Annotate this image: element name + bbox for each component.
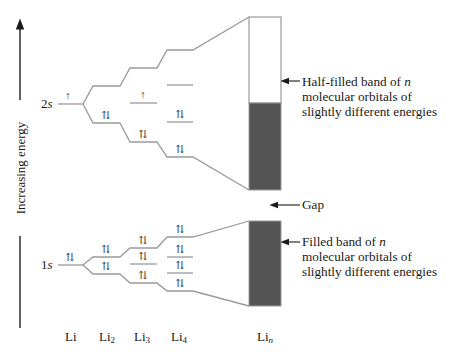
electron-pair-icon: ⇅ <box>138 234 147 246</box>
species-label-lin: Lin <box>257 329 274 345</box>
orbital-label-1s: 1s <box>41 257 53 272</box>
half-filled-line1: Half-filled band of n <box>302 74 411 89</box>
species-labels: Li Li2 Li3 Li4 Lin <box>65 329 274 345</box>
electron-up-icon: ↑ <box>65 89 71 101</box>
electron-pair-icon: ⇅ <box>65 251 74 263</box>
electron-up-icon: ↑ <box>140 88 146 100</box>
electron-pair-icon: ⇅ <box>175 223 184 235</box>
electron-pair-icon: ⇅ <box>138 269 147 281</box>
upper-band-empty-half <box>249 17 281 103</box>
filled-line2: molecular orbitals of <box>302 249 412 264</box>
upper-band <box>249 17 281 190</box>
electron-pair-icon: ⇅ <box>138 250 147 262</box>
species-label-li4: Li4 <box>171 329 188 345</box>
lower-band <box>249 221 281 306</box>
half-filled-annotation: Half-filled band of n molecular orbitals… <box>285 74 437 119</box>
band-theory-diagram: Increasing energy 2s 1s ↑ ⇅ ↑ ⇅ ⇅ ⇅ ⇅ ⇅ … <box>0 0 451 364</box>
2s-manifold: ↑ ⇅ ↑ ⇅ ⇅ ⇅ <box>58 17 249 190</box>
1s-manifold: ⇅ ⇅ ⇅ ⇅ ⇅ ⇅ ⇅ ⇅ ⇅ ⇅ <box>58 221 249 306</box>
species-label-li3: Li3 <box>134 329 151 345</box>
electron-pair-icon: ⇅ <box>101 109 110 121</box>
electron-pair-icon: ⇅ <box>175 243 184 255</box>
electron-pair-icon: ⇅ <box>175 259 184 271</box>
energy-axis: Increasing energy <box>13 24 28 328</box>
electron-pair-icon: ⇅ <box>101 243 110 255</box>
electron-pair-icon: ⇅ <box>175 277 184 289</box>
electron-pair-icon: ⇅ <box>175 108 184 120</box>
energy-axis-label: Increasing energy <box>13 121 28 214</box>
filled-line3: slightly different energies <box>302 264 437 279</box>
half-filled-line2: molecular orbitals of <box>302 89 412 104</box>
upper-band-filled-half <box>249 103 281 190</box>
electron-pair-icon: ⇅ <box>175 143 184 155</box>
gap-label: Gap <box>302 197 324 212</box>
species-label-li2: Li2 <box>99 329 115 345</box>
half-filled-line3: slightly different energies <box>302 104 437 119</box>
lower-band-filled <box>249 221 281 306</box>
electron-pair-icon: ⇅ <box>101 260 110 272</box>
orbital-label-2s: 2s <box>41 96 53 111</box>
filled-annotation: Filled band of n molecular orbitals of s… <box>285 234 437 279</box>
gap-annotation: Gap <box>274 197 324 212</box>
species-label-li: Li <box>65 329 77 344</box>
electron-pair-icon: ⇅ <box>138 128 147 140</box>
filled-line1: Filled band of n <box>302 234 386 249</box>
2s-upper-branch <box>83 17 249 104</box>
